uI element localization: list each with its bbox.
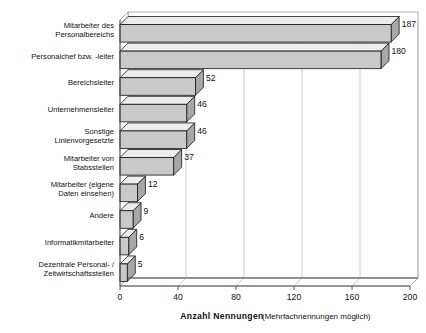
x-tick-label: 120: [287, 292, 302, 302]
bar-7[interactable]: [120, 176, 145, 202]
category-label: Personalchef bzw. -leiter: [31, 52, 114, 61]
bar-front-face: [120, 264, 127, 282]
value-label: 6: [139, 232, 144, 242]
category-label: Bereichsleiter: [68, 78, 114, 87]
value-label: 46: [197, 126, 207, 136]
bar-front-face: [120, 131, 187, 149]
bar-5[interactable]: [120, 123, 195, 149]
x-tick-label: 0: [118, 292, 123, 302]
value-label: 187: [402, 19, 417, 29]
category-label: Andere: [90, 211, 115, 220]
bar-chart-3d: 04080120160200 Mitarbeiter desPersonalbe…: [0, 0, 426, 333]
bar-1[interactable]: [120, 17, 399, 43]
category-label: Mitarbeiter desPersonalbereichs: [55, 21, 114, 39]
category-label: Mitarbeiter (eigeneDaten einsehen): [51, 180, 115, 198]
x-axis-ticks: 04080120160200: [118, 286, 418, 302]
bar-top-face: [120, 150, 182, 158]
bar-top-face: [120, 70, 203, 78]
x-tick-label: 80: [231, 292, 241, 302]
bar-front-face: [120, 211, 133, 229]
x-axis-note: (Mehrfachnennungen möglich): [262, 312, 371, 321]
category-labels: Mitarbeiter desPersonalbereichsPersonalc…: [31, 21, 115, 279]
bar-top-face: [120, 17, 399, 25]
x-tick-label: 160: [345, 292, 360, 302]
category-label: Mitarbeiter vonStabsstellen: [64, 154, 114, 172]
bar-front-face: [120, 25, 391, 43]
bar-front-face: [120, 51, 381, 69]
bar-3[interactable]: [120, 70, 203, 96]
category-label: SonstigeLinienvorgesetzte: [54, 127, 114, 145]
category-label: Informatikmitarbeiter: [45, 238, 115, 247]
chart-container: 04080120160200 Mitarbeiter desPersonalbe…: [0, 0, 426, 333]
x-axis-title: Anzahl Nennungen: [180, 311, 263, 321]
value-label: 37: [184, 152, 194, 162]
bar-front-face: [120, 158, 174, 176]
value-label: 5: [138, 259, 143, 269]
category-label: Dezentrale Personal- /Zeitwirtschaftsste…: [38, 260, 114, 278]
bar-6[interactable]: [120, 150, 182, 176]
value-label: 12: [148, 179, 158, 189]
category-label: Unternehmensleiter: [48, 105, 115, 114]
bar-front-face: [120, 104, 187, 122]
bar-top-face: [120, 123, 195, 131]
bar-front-face: [120, 237, 129, 255]
floor-plane: [120, 278, 418, 286]
bar-2[interactable]: [120, 43, 389, 69]
bar-front-face: [120, 78, 195, 96]
bar-top-face: [120, 43, 389, 51]
value-label: 46: [197, 99, 207, 109]
bar-top-face: [120, 96, 195, 104]
bar-front-face: [120, 184, 137, 202]
bar-4[interactable]: [120, 96, 195, 122]
x-tick-label: 200: [403, 292, 418, 302]
value-label: 9: [144, 206, 149, 216]
value-label: 180: [392, 46, 407, 56]
value-label: 52: [206, 73, 216, 83]
x-tick-label: 40: [173, 292, 183, 302]
